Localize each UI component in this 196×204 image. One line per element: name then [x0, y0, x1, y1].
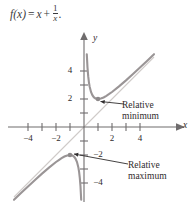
relative-maximum-point: [68, 153, 73, 158]
relative-maximum-label-line2: maximum: [128, 171, 167, 182]
formula-equals: =: [26, 8, 37, 20]
formula-fraction-numerator: 1: [53, 4, 58, 13]
formula-period: .: [59, 8, 62, 20]
relative-maximum-label-line1: Relative: [128, 160, 167, 171]
relative-minimum-label-line1: Relative: [122, 100, 159, 111]
relative-minimum-point: [96, 97, 101, 102]
x-axis: [8, 123, 185, 131]
y-axis-label: y: [93, 33, 97, 43]
figure-graph-of-f: f(x)=x+1x. y x −4−22442−2−4: [0, 0, 196, 204]
relative-minimum-label: Relative minimum: [122, 100, 159, 121]
x-tick-label-4: 4: [132, 133, 148, 143]
curve-branch-positive: [87, 54, 154, 99]
curve-branch-negative: [14, 155, 81, 200]
y-axis-arrow: [80, 32, 88, 40]
y-tick-label-4: 4: [62, 65, 78, 75]
x-axis-label: x: [183, 120, 187, 130]
y-tick-label--4: −4: [90, 177, 106, 187]
formula-term-x: x: [36, 8, 41, 20]
x-tick-label-2: 2: [104, 133, 120, 143]
x-tick-label--4: −4: [20, 133, 36, 143]
function-formula: f(x)=x+1x.: [10, 4, 61, 24]
relative-maximum-label: Relative maximum: [128, 160, 167, 181]
formula-plus: +: [42, 8, 53, 20]
formula-lhs: f(x): [10, 8, 26, 20]
x-tick-label--2: −2: [48, 133, 64, 143]
y-tick-label--2: −2: [90, 149, 106, 159]
relative-minimum-label-line2: minimum: [122, 111, 159, 122]
y-tick-label-2: 2: [62, 93, 78, 103]
formula-fraction-denominator: x: [53, 13, 58, 23]
